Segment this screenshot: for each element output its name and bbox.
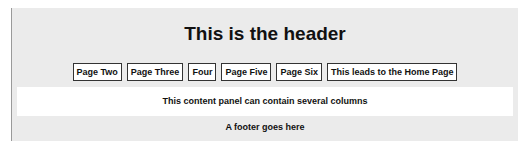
nav-link-page-three[interactable]: Page Three [127,63,184,81]
page-header: This is the header [12,22,518,46]
nav-link-page-five[interactable]: Page Five [221,63,271,81]
nav-bar: Page Two Page Three Four Page Five Page … [12,63,518,81]
content-panel: This content panel can contain several c… [17,87,513,116]
nav-link-home[interactable]: This leads to the Home Page [327,63,458,81]
nav-link-four[interactable]: Four [188,63,216,81]
nav-link-page-six[interactable]: Page Six [276,63,322,81]
nav-link-page-two[interactable]: Page Two [73,63,122,81]
page-container: This is the header Page Two Page Three F… [11,8,518,141]
page-footer: A footer goes here [12,120,518,134]
